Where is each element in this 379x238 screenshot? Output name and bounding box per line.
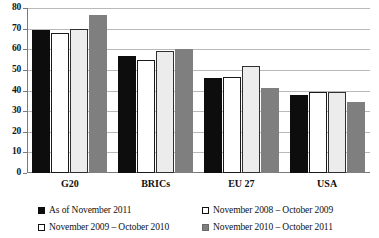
- y-tick-label: 80: [12, 3, 21, 13]
- x-axis-category-labels: G20BRICsEU 27USA: [27, 176, 370, 192]
- y-tick-label: 0: [16, 168, 21, 178]
- legend-swatch-icon: [38, 224, 45, 231]
- bar: [118, 56, 136, 173]
- bar-chart: 01020304050607080 G20BRICsEU 27USA As of…: [0, 0, 379, 238]
- bar: [328, 92, 346, 173]
- chart-legend: As of November 2011November 2008 – Octob…: [38, 202, 356, 236]
- legend-label: November 2009 – October 2010: [49, 223, 169, 233]
- legend-label: November 2010 – October 2011: [213, 223, 333, 233]
- legend-item[interactable]: As of November 2011: [38, 206, 202, 216]
- y-tick-label: 70: [12, 24, 21, 34]
- legend-swatch-icon: [202, 207, 209, 214]
- category-label-0: G20: [27, 176, 113, 192]
- bar: [309, 92, 327, 173]
- bar-group: [113, 8, 199, 173]
- bar: [89, 15, 107, 173]
- legend-swatch-icon: [202, 224, 209, 231]
- legend-label: As of November 2011: [49, 206, 131, 216]
- y-tick-label: 10: [12, 147, 21, 157]
- y-tick-label: 50: [12, 65, 21, 75]
- bar: [242, 66, 260, 173]
- legend-item[interactable]: November 2009 – October 2010: [38, 223, 202, 233]
- plot-area: [27, 8, 370, 173]
- legend-swatch-icon: [38, 207, 45, 214]
- y-tick-label: 60: [12, 44, 21, 54]
- legend-label: November 2008 – October 2009: [213, 206, 333, 216]
- bar-group: [199, 8, 285, 173]
- bar: [347, 102, 365, 173]
- bar: [261, 88, 279, 173]
- legend-item[interactable]: November 2010 – October 2011: [202, 223, 356, 233]
- bar-group: [284, 8, 370, 173]
- bar: [223, 77, 241, 173]
- bar: [137, 60, 155, 173]
- y-tick-label: 20: [12, 127, 21, 137]
- bar: [290, 95, 308, 173]
- bar: [204, 78, 222, 173]
- y-tick-label: 30: [12, 106, 21, 116]
- category-label-3: USA: [284, 176, 370, 192]
- bar: [70, 29, 88, 173]
- legend-item[interactable]: November 2008 – October 2009: [202, 206, 356, 216]
- category-label-1: BRICs: [113, 176, 199, 192]
- bar-group: [27, 8, 113, 173]
- bars-layer: [27, 8, 370, 173]
- bar: [175, 49, 193, 173]
- category-label-2: EU 27: [199, 176, 285, 192]
- bar: [32, 30, 50, 173]
- y-tick-mark: [23, 173, 27, 174]
- y-tick-label: 40: [12, 86, 21, 96]
- bar: [156, 51, 174, 173]
- bar: [51, 33, 69, 173]
